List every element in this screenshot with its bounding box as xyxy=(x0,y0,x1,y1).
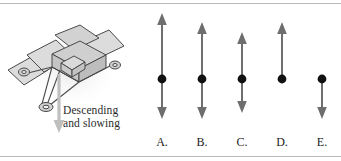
vector-choice-panel: A. B. C. xyxy=(142,0,341,161)
vector-d-head-up xyxy=(277,22,287,34)
vector-d-dot xyxy=(278,75,287,84)
descent-caption: Descending and slowing xyxy=(63,104,139,130)
vector-a-head-down xyxy=(157,107,167,119)
vector-label-c: C. xyxy=(222,135,262,150)
rover-wheel-left-inner xyxy=(22,71,26,74)
vector-b-dot xyxy=(198,75,207,84)
vector-b-head-down xyxy=(197,107,207,119)
vector-label-e: E. xyxy=(302,135,341,150)
vector-c-dot xyxy=(238,75,247,84)
vector-e-head-down xyxy=(317,107,327,119)
descent-caption-line-1: Descending xyxy=(63,104,139,117)
figure-canvas: Descending and slowing A. B. xyxy=(0,0,341,161)
vector-label-b: B. xyxy=(182,135,222,150)
vector-label-a: A. xyxy=(142,135,182,150)
vector-e-dot xyxy=(318,75,327,84)
vector-c-head-up xyxy=(237,32,247,44)
vector-a-dot xyxy=(158,75,167,84)
rover-illustration xyxy=(0,8,142,156)
vector-label-d: D. xyxy=(262,135,302,150)
rover-wheel-bottom-inner xyxy=(43,105,49,109)
rover-wheel-right-inner xyxy=(113,64,117,67)
vector-c-head-down xyxy=(237,101,247,113)
vector-b-head-up xyxy=(197,22,207,34)
vector-a-head-up xyxy=(157,13,167,25)
descent-caption-line-2: and slowing xyxy=(63,117,139,130)
